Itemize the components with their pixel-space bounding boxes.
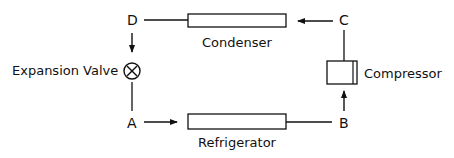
point-label-a: A [127, 116, 137, 130]
condenser-box [188, 14, 286, 27]
condenser-label: Condenser [202, 36, 272, 49]
expansion-valve-label: Expansion Valve [12, 64, 118, 77]
point-label-b: B [339, 116, 349, 130]
refrigerator-box [188, 114, 286, 129]
point-label-c: C [339, 13, 349, 27]
point-label-d: D [127, 13, 138, 27]
compressor-label: Compressor [364, 67, 442, 80]
expansion-valve-icon [124, 63, 140, 79]
refrigerator-label: Refrigerator [198, 136, 276, 149]
